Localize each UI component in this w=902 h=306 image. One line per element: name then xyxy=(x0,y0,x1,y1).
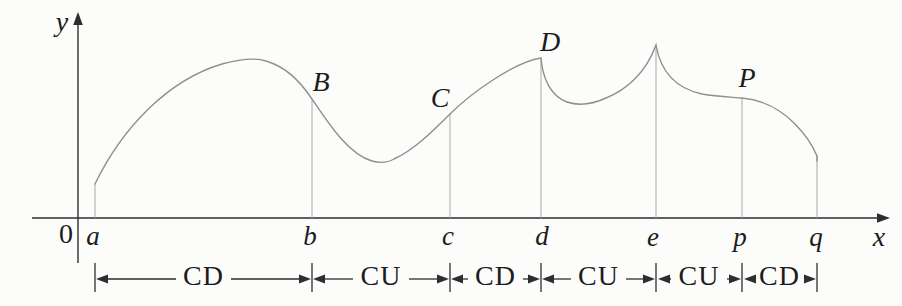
interval-label: CD xyxy=(475,260,516,291)
interval-label: CD xyxy=(183,260,224,291)
interval-segment-3: CD xyxy=(451,260,540,291)
interval-segment-4: CU xyxy=(542,260,655,291)
x-point-label-e: e xyxy=(647,222,659,252)
curve-point-label-P: P xyxy=(737,62,755,93)
x-axis: x 0 xyxy=(32,213,890,252)
interval-label: CU xyxy=(679,260,720,291)
interval-arrow-left-icon xyxy=(542,275,554,284)
interval-arrow-left-icon xyxy=(313,275,325,284)
origin-label: 0 xyxy=(59,218,73,249)
y-axis-label: y xyxy=(53,6,69,37)
interval-arrow-right-icon xyxy=(804,275,816,284)
x-point-label-d: d xyxy=(535,221,549,251)
interval-segment-1: CD xyxy=(96,260,311,291)
figure-canvas: y x 0 a b c d e p q xyxy=(0,0,902,306)
interval-arrow-left-icon xyxy=(96,275,108,284)
interval-arrow-right-icon xyxy=(437,275,449,284)
interval-segment-2: CU xyxy=(313,260,449,291)
interval-segment-5: CU xyxy=(658,260,741,291)
interval-label: CU xyxy=(578,260,619,291)
x-point-label-p: p xyxy=(731,222,747,252)
x-point-label-b: b xyxy=(303,221,317,251)
interval-label: CD xyxy=(759,260,800,291)
interval-arrow-left-icon xyxy=(451,275,463,284)
interval-segment-6: CD xyxy=(744,260,816,291)
curve-point-label-C: C xyxy=(431,82,450,113)
interval-arrow-right-icon xyxy=(729,275,741,284)
x-point-label-a: a xyxy=(86,221,100,251)
interval-arrow-left-icon xyxy=(658,275,670,284)
curve-point-label-D: D xyxy=(539,26,560,57)
interval-arrow-left-icon xyxy=(744,275,756,284)
concavity-figure: y x 0 a b c d e p q xyxy=(0,0,902,306)
x-point-labels: a b c d e p q xyxy=(86,221,823,252)
x-point-label-c: c xyxy=(442,221,454,251)
curve-point-label-B: B xyxy=(312,66,329,97)
interval-arrow-right-icon xyxy=(299,275,311,284)
interval-row: CD CU CD xyxy=(95,260,817,292)
interval-label: CU xyxy=(361,260,402,291)
x-point-label-q: q xyxy=(809,222,823,252)
y-axis-arrow-icon xyxy=(73,12,83,25)
x-axis-label: x xyxy=(872,221,886,252)
interval-arrow-right-icon xyxy=(528,275,540,284)
function-curve xyxy=(95,45,817,184)
curve-point-labels: B C D P xyxy=(312,26,755,113)
interval-arrow-right-icon xyxy=(643,275,655,284)
